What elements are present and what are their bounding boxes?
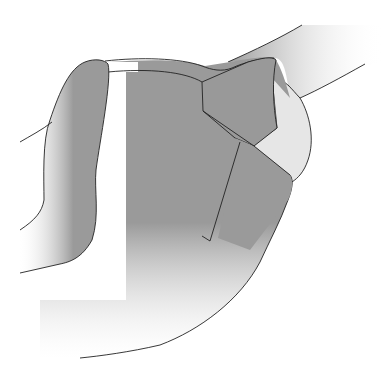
- illustration: [0, 0, 383, 373]
- white-strip: [108, 70, 126, 300]
- thumb-shape: [20, 60, 109, 273]
